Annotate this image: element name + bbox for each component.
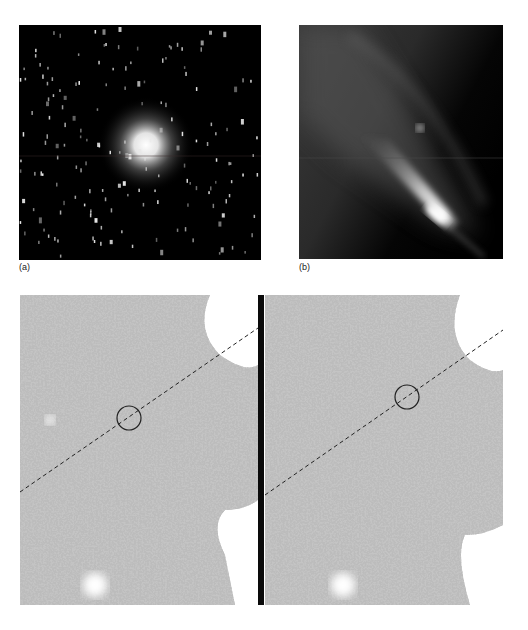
panel-c-right-noise-field bbox=[265, 295, 503, 605]
panel-a-comet-starfield bbox=[19, 25, 261, 260]
starfield-image bbox=[19, 25, 261, 260]
panel-divider bbox=[258, 295, 264, 605]
noise-field-right bbox=[265, 295, 503, 605]
panel-c-left-noise-field bbox=[20, 295, 258, 605]
tail-image bbox=[299, 25, 503, 259]
noise-field-left bbox=[20, 295, 258, 605]
panel-b-label: (b) bbox=[299, 262, 310, 272]
panel-a-label: (a) bbox=[19, 262, 30, 272]
panel-b-comet-tail bbox=[299, 25, 503, 259]
